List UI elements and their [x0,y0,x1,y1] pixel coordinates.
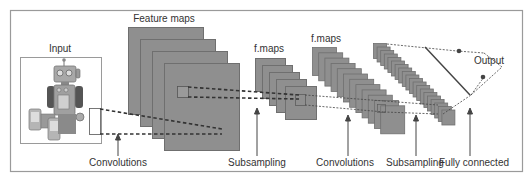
fmaps-1-stack [256,59,317,120]
fully-connected-layer [425,47,470,95]
input-image [21,58,102,144]
subsample-window [178,87,189,98]
label-convolutions-2: Convolutions [316,157,374,168]
feature-maps-stack [129,28,240,151]
label-input: Input [49,43,71,54]
label-subsampling-1: Subsampling [228,157,286,168]
label-convolutions-1: Convolutions [89,157,147,168]
label-fmaps-1: f.maps [254,43,284,54]
output-node-2 [481,75,486,80]
label-output: Output [474,55,504,66]
label-fully-connected: Fully connected [439,157,509,168]
label-fmaps-2: f.maps [311,33,341,44]
output-node-1 [457,49,462,54]
label-feature-maps: Feature maps [133,13,195,24]
cnn-diagram [0,0,529,181]
label-subsampling-2: Subsampling [386,157,444,168]
